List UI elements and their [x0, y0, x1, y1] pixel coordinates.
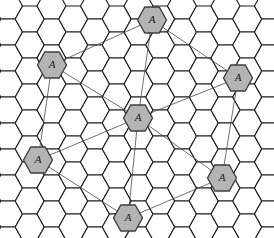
marked-cell-cell-lower-left[interactable]: A: [24, 147, 53, 173]
hex-grid-canvas: AAAAAAA: [0, 0, 274, 238]
cell-label: A: [134, 111, 142, 123]
marked-cell-cell-upper-left[interactable]: A: [38, 52, 67, 78]
marked-cell-cell-bottom[interactable]: A: [114, 205, 143, 231]
marked-cell-cell-right[interactable]: A: [224, 65, 253, 91]
cell-label: A: [234, 71, 242, 83]
cell-label: A: [148, 13, 156, 25]
cell-label: A: [124, 211, 132, 223]
marked-cell-cell-lower-right[interactable]: A: [208, 165, 237, 191]
cell-label: A: [218, 171, 226, 183]
marked-cell-cell-center[interactable]: A: [124, 105, 153, 131]
hex-grid-figure: AAAAAAA: [0, 0, 274, 238]
cell-label: A: [34, 153, 42, 165]
cell-label: A: [48, 58, 56, 70]
marked-cell-cell-top[interactable]: A: [138, 7, 167, 33]
